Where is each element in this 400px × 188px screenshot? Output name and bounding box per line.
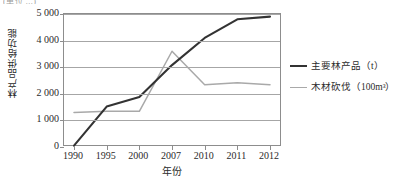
chart-legend: 主要林产品（t） 木材砍伐（100m³） [290, 60, 396, 102]
y-axis-tick [60, 120, 64, 121]
y-axis-tick [60, 147, 64, 148]
x-axis-tick-label: 2010 [194, 150, 214, 161]
legend-swatch-line-dark [290, 65, 307, 67]
y-axis-tick-label: 4 000 [18, 35, 59, 45]
x-axis-tick-label: 2011 [227, 150, 247, 161]
chart-figure: (单位 ...) 林产品供给功能 01 0002 0003 0004 0005 … [0, 0, 400, 188]
y-axis-tick-label: 3 000 [18, 61, 59, 71]
y-axis-tick-label: 5 000 [18, 8, 59, 18]
legend-item-timber-logging: 木材砍伐（100m³） [290, 81, 396, 93]
legend-label-main-forest-products: 主要林产品（t） [311, 60, 384, 72]
grid-line [64, 14, 280, 15]
y-axis-tick [60, 67, 64, 68]
x-axis-tick-label: 1990 [63, 150, 83, 161]
grid-line [64, 94, 280, 95]
grid-line [64, 67, 280, 68]
plot-area [63, 13, 281, 146]
series-line-timber-logging [74, 51, 270, 112]
series-lines [64, 14, 282, 147]
x-axis-tick-label: 1995 [96, 150, 116, 161]
x-axis-title: 年份 [162, 163, 182, 178]
x-axis-tick-label: 2000 [128, 150, 148, 161]
y-axis-tick-label: 2 000 [18, 88, 59, 98]
grid-line [64, 41, 280, 42]
y-axis-tick [60, 94, 64, 95]
series-line-main-forest-products [74, 17, 270, 146]
y-axis-tick [60, 41, 64, 42]
legend-swatch-line-gray [290, 87, 307, 88]
legend-item-main-forest-products: 主要林产品（t） [290, 60, 396, 72]
x-axis-tick-label: 2012 [259, 150, 279, 161]
x-axis-tick-label: 2007 [161, 150, 181, 161]
y-axis-tick-label: 1 000 [18, 114, 59, 124]
y-axis-tick-label: 0 [18, 141, 59, 151]
legend-label-timber-logging: 木材砍伐（100m³） [311, 81, 396, 93]
y-axis-tick [60, 14, 64, 15]
grid-line [64, 120, 280, 121]
